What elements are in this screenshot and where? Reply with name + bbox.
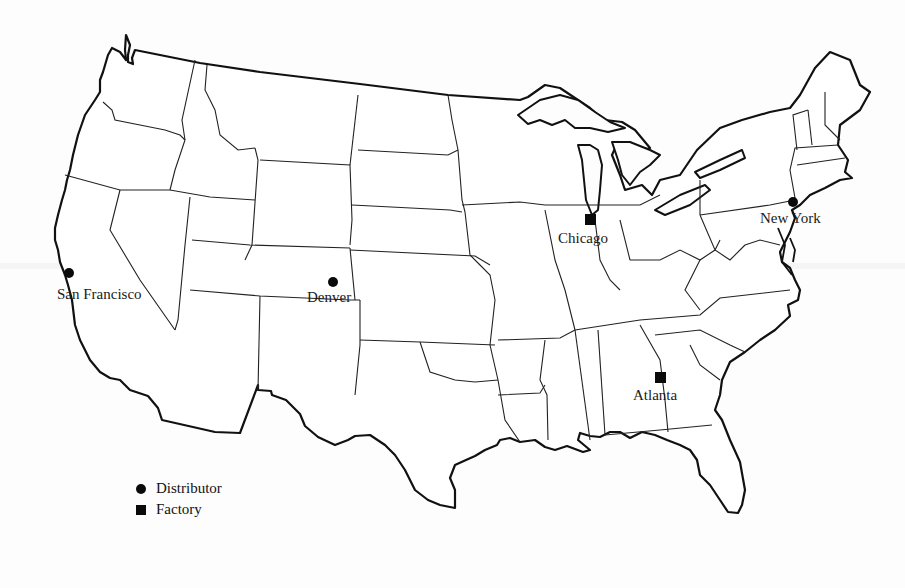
map-legend: Distributor Factory: [136, 478, 222, 520]
city-label-san-francisco: San Francisco: [57, 286, 142, 303]
distributor-marker-denver[interactable]: [328, 277, 338, 287]
city-label-atlanta: Atlanta: [633, 387, 677, 404]
legend-item-factory: Factory: [136, 499, 222, 520]
factory-marker-atlanta[interactable]: [655, 372, 666, 383]
city-label-chicago: Chicago: [558, 230, 608, 247]
city-label-new-york: New York: [760, 210, 821, 227]
distributor-marker-san-francisco[interactable]: [64, 268, 74, 278]
factory-marker-chicago[interactable]: [585, 214, 596, 225]
legend-item-distributor: Distributor: [136, 478, 222, 499]
us-outline: [55, 35, 870, 513]
circle-icon: [136, 484, 146, 494]
distributor-marker-new-york[interactable]: [788, 197, 798, 207]
city-label-denver: Denver: [307, 289, 351, 306]
square-icon: [136, 505, 146, 515]
legend-label: Distributor: [156, 480, 222, 497]
legend-label: Factory: [156, 501, 202, 518]
